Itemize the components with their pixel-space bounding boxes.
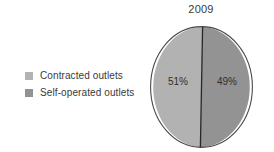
- legend-item-label: Self-operated outlets: [40, 87, 134, 98]
- slice-value-label-self-operated-outlets: 49%: [207, 76, 247, 87]
- chart-legend: Contracted outlets Self-operated outlets: [25, 67, 134, 101]
- pie-chart-figure: 2009 51% 49% Contracted outlets Self-ope…: [0, 0, 274, 152]
- pie-svg: [150, 26, 253, 148]
- legend-color-swatch-icon: [25, 89, 33, 97]
- chart-title: 2009: [150, 3, 252, 15]
- pie-slice-self-operated-outlets[interactable]: [200, 27, 249, 148]
- slice-value-label-contracted-outlets: 51%: [158, 76, 198, 87]
- legend-item-contracted-outlets[interactable]: Contracted outlets: [25, 67, 134, 84]
- pie-graphic: [150, 26, 253, 148]
- pie-slice-contracted-outlets[interactable]: [153, 27, 202, 148]
- legend-item-self-operated-outlets[interactable]: Self-operated outlets: [25, 84, 134, 101]
- legend-color-swatch-icon: [25, 72, 33, 80]
- legend-item-label: Contracted outlets: [40, 70, 123, 81]
